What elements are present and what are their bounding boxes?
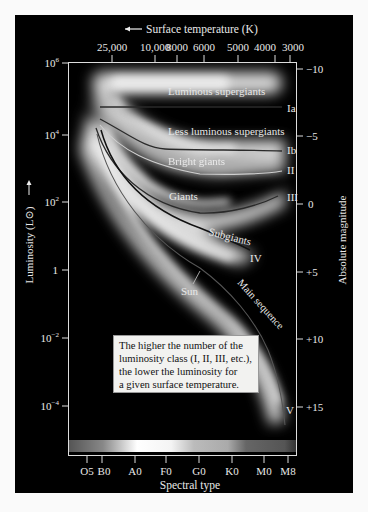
svg-text:A0: A0 — [128, 465, 142, 477]
svg-text:Ia: Ia — [287, 102, 296, 114]
svg-text:IV: IV — [250, 252, 262, 264]
svg-text:1: 1 — [53, 264, 59, 276]
label-giants: Giants — [169, 190, 198, 202]
svg-text:G0: G0 — [192, 465, 206, 477]
label-main-sequence: Main sequence — [236, 277, 287, 332]
svg-text:M8: M8 — [280, 465, 296, 477]
svg-text:II: II — [287, 164, 295, 176]
label-bright-giants: Bright giants — [168, 155, 225, 167]
svg-text:0: 0 — [308, 198, 314, 210]
explanation-note: The higher the number of the luminosity … — [113, 335, 259, 393]
bottom-axis-title: Spectral type — [160, 479, 220, 492]
right-axis-ticks — [297, 69, 303, 407]
svg-text:V: V — [286, 404, 294, 416]
svg-text:102: 102 — [45, 195, 60, 208]
svg-text:Luminosity (L⊙): Luminosity (L⊙) — [23, 206, 36, 283]
label-sun: Sun — [181, 285, 199, 297]
sun-pointer — [193, 271, 200, 284]
right-axis-labels: −10 −5 0 +5 +10 +15 — [306, 63, 324, 413]
svg-text:8000: 8000 — [166, 41, 189, 53]
left-axis-labels: 106 104 102 1 10−2 10−4 — [41, 56, 60, 412]
arrowhead-icon — [27, 180, 32, 185]
svg-text:10−4: 10−4 — [41, 399, 60, 412]
svg-text:3000: 3000 — [282, 41, 305, 53]
svg-text:+5: +5 — [306, 266, 318, 278]
label-less-luminous-supergiants: Less luminous supergiants — [168, 125, 285, 137]
left-axis-title: Luminosity (L⊙) — [23, 180, 36, 283]
bottom-axis-ticks — [87, 456, 288, 463]
svg-text:O5: O5 — [80, 465, 94, 477]
svg-text:10−2: 10−2 — [41, 331, 60, 344]
top-axis-labels: 25,000 10,000 8000 6000 5000 4000 3000 — [97, 41, 305, 53]
spectral-color-bar — [69, 440, 296, 452]
left-axis-ticks — [62, 63, 68, 406]
svg-text:−5: −5 — [306, 130, 318, 142]
arrowhead-icon — [125, 27, 130, 32]
svg-text:25,000: 25,000 — [97, 41, 128, 53]
svg-text:III: III — [287, 191, 298, 203]
svg-text:M0: M0 — [256, 465, 272, 477]
bottom-axis-labels: O5 B0 A0 F0 G0 K0 M0 M8 — [80, 465, 296, 477]
svg-text:4000: 4000 — [254, 41, 277, 53]
label-luminous-supergiants: Luminous supergiants — [168, 85, 265, 97]
svg-text:6000: 6000 — [193, 41, 216, 53]
svg-text:106: 106 — [45, 56, 60, 69]
svg-text:+10: +10 — [306, 333, 324, 345]
svg-text:5000: 5000 — [227, 41, 250, 53]
top-axis-title: Surface temperature (K) — [125, 23, 258, 36]
right-axis-title: Absolute magnitude — [336, 195, 348, 284]
hr-diagram: Surface temperature (K) 25,000 10,000 80… — [0, 0, 368, 512]
svg-text:Ib: Ib — [287, 144, 297, 156]
svg-text:104: 104 — [45, 128, 60, 141]
svg-text:K0: K0 — [225, 465, 239, 477]
svg-text:Surface temperature (K): Surface temperature (K) — [146, 23, 258, 36]
svg-text:−10: −10 — [306, 63, 324, 75]
svg-text:F0: F0 — [160, 465, 172, 477]
svg-text:B0: B0 — [98, 465, 111, 477]
svg-text:+15: +15 — [306, 401, 324, 413]
top-axis-ticks — [112, 55, 290, 62]
